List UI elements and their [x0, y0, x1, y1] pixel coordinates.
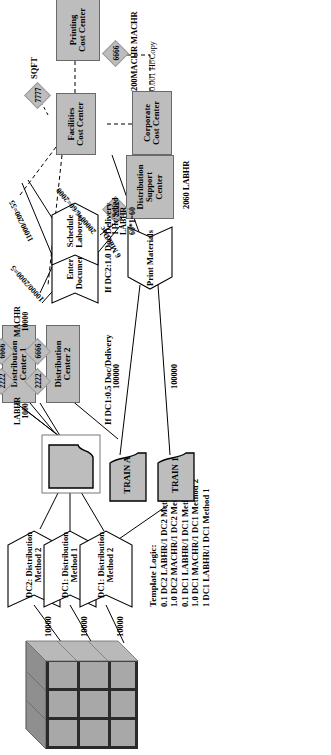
- edge-label-train-1-qty: 100000: [170, 364, 179, 389]
- driver-dc1-machr: 6666: [0, 339, 14, 363]
- driver-value: 7777: [26, 83, 50, 107]
- driver-facilities-sqft: 7777: [26, 83, 50, 107]
- edge-label-if-dc2: If DC2:1.0 Doc/Delivery: [104, 203, 113, 293]
- edge-label-dc2-m2-qty: 10000: [44, 616, 53, 637]
- document-train-1-label: TRAIN 1: [156, 447, 196, 503]
- doc-label: TRAIN 1: [171, 457, 180, 493]
- driver-dc2-labhr-label: LABHR 1000: [14, 397, 30, 425]
- box-facilities-cost-center[interactable]: Facilities Cost Center: [56, 93, 96, 155]
- driver-dc1-labhr: 2222: [0, 369, 14, 393]
- document-report: [42, 435, 100, 493]
- driver-value: 2222: [26, 369, 50, 393]
- box-printing-cost-center[interactable]: Printing Cost Center: [56, 0, 100, 61]
- edge-label-dc1-m1-qty: 10000: [80, 616, 89, 637]
- driver-value: 6666: [0, 339, 14, 363]
- cost-object-cube: [26, 641, 138, 749]
- edge-label-dc1-m2-qty: 10000: [116, 616, 125, 637]
- edge-label-if-dc1: If DC1:0.5 Doc/Delivery: [104, 335, 113, 425]
- driver-value: 2222: [0, 369, 14, 393]
- driver-dc2-labhr: 2222: [26, 369, 50, 393]
- diagram-canvas: DC2: Distribution Method 2 DC1: Distribu…: [0, 0, 331, 755]
- edge-label-train-a-qty: 100000: [112, 364, 121, 389]
- document-train-a-label: TRAIN A: [108, 447, 148, 503]
- edge-label-hr-per-copy: 0.001 Hr/Copy: [148, 41, 157, 91]
- template-logic-line-5: 1 DC1 LABHR/1 DC1 Method 1: [201, 427, 211, 607]
- driver-value: 6666: [26, 339, 50, 363]
- driver-dc2-machr: 6666: [26, 339, 50, 363]
- edge-label-dsc-labhr-total: 2060 LABHR: [182, 161, 191, 209]
- diagram-rotated-canvas: DC2: Distribution Method 2 DC1: Distribu…: [0, 0, 331, 755]
- activity-dc1-method-2[interactable]: DC1: Distribution Method 2: [80, 531, 132, 607]
- driver-facilities-sqft-label: SQFT: [30, 57, 39, 79]
- document-train-1: TRAIN 1: [156, 447, 196, 503]
- driver-dc2-machr-label: MACHR 10000: [14, 306, 30, 337]
- driver-value: 6666: [104, 41, 128, 65]
- document-train-a: TRAIN A: [108, 447, 148, 503]
- edge-label-printing-machr-rate: 200MACHR MACHR: [130, 11, 139, 91]
- doc-label: TRAIN A: [123, 456, 132, 493]
- box-distribution-center-2[interactable]: Distribution Center 2: [46, 325, 80, 403]
- edge-label-hr-per-sched: 1 Hr/Sched LABHR 60*1=60: [112, 198, 137, 235]
- activity-print-materials[interactable]: Print Materials: [128, 227, 172, 289]
- box-corporate-cost-center[interactable]: Corporate Cost Center: [132, 91, 172, 155]
- driver-printing-machr: 6666: [104, 41, 128, 65]
